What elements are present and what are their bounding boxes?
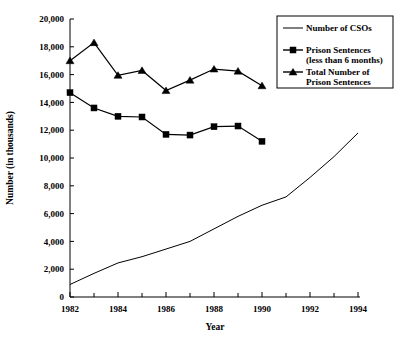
legend-label: Number of CSOs bbox=[306, 23, 372, 33]
data-point-square bbox=[139, 114, 145, 120]
x-tick-label: 1994 bbox=[349, 304, 368, 314]
data-point-square bbox=[211, 124, 217, 130]
legend-label: Total Number of bbox=[306, 67, 371, 77]
data-point-square bbox=[235, 123, 241, 129]
series-3 bbox=[66, 39, 266, 94]
x-tick-label: 1992 bbox=[301, 304, 320, 314]
y-axis-title: Number (in thousands) bbox=[5, 111, 16, 205]
legend-label-line2: (less than 6 months) bbox=[306, 55, 383, 65]
y-axis-ticks: 02,0004,0006,0008,00010,00012,00014,0001… bbox=[39, 14, 74, 302]
x-tick-label: 1982 bbox=[61, 304, 80, 314]
y-tick-label: 14,000 bbox=[39, 98, 64, 108]
series-1 bbox=[70, 133, 358, 285]
legend-label-line2: Prison Sentences bbox=[306, 77, 371, 87]
x-tick-label: 1988 bbox=[205, 304, 224, 314]
y-tick-label: 4,000 bbox=[44, 237, 65, 247]
legend-marker-square bbox=[290, 47, 296, 53]
x-tick-label: 1986 bbox=[157, 304, 176, 314]
series-polyline bbox=[70, 43, 262, 91]
data-point-square bbox=[259, 138, 265, 144]
y-tick-label: 16,000 bbox=[39, 70, 64, 80]
line-chart: 02,0004,0006,0008,00010,00012,00014,0001… bbox=[0, 0, 399, 344]
data-point-triangle bbox=[138, 67, 146, 74]
data-point-triangle bbox=[258, 82, 266, 89]
y-tick-label: 8,000 bbox=[44, 181, 65, 191]
data-point-triangle bbox=[90, 39, 98, 46]
y-tick-label: 18,000 bbox=[39, 42, 64, 52]
x-tick-label: 1990 bbox=[253, 304, 272, 314]
y-tick-label: 20,000 bbox=[39, 14, 64, 24]
x-axis-title: Year bbox=[206, 322, 226, 332]
data-point-square bbox=[115, 113, 121, 119]
y-tick-label: 0 bbox=[60, 292, 65, 302]
series-2 bbox=[67, 90, 265, 145]
y-tick-label: 10,000 bbox=[39, 153, 64, 163]
data-point-square bbox=[91, 105, 97, 111]
chart-container: 02,0004,0006,0008,00010,00012,00014,0001… bbox=[0, 0, 399, 344]
data-point-square bbox=[67, 90, 73, 96]
data-point-square bbox=[187, 132, 193, 138]
y-tick-label: 6,000 bbox=[44, 209, 65, 219]
data-point-square bbox=[163, 131, 169, 137]
series-polyline bbox=[70, 133, 358, 285]
y-tick-label: 2,000 bbox=[44, 264, 65, 274]
y-tick-label: 12,000 bbox=[39, 125, 64, 135]
chart-legend: Number of CSOsPrison Sentences(less than… bbox=[277, 16, 393, 88]
x-axis-ticks: 1982198419861988199019921994 bbox=[61, 292, 368, 314]
x-tick-label: 1984 bbox=[109, 304, 128, 314]
data-point-triangle bbox=[186, 77, 194, 84]
legend-label: Prison Sentences bbox=[306, 45, 371, 55]
